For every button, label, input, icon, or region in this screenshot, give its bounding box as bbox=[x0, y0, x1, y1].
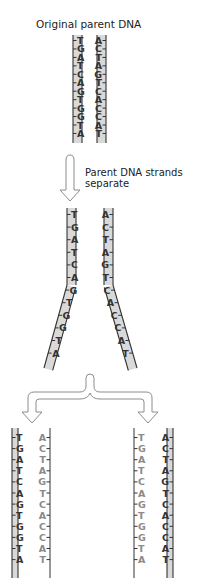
separating-dna-duplex: TAGCATTACGATGCTAGCGCTAAT bbox=[44, 208, 137, 371]
left-daughter-duplex: TAGCATTACGATGCTAGCGCTAAT bbox=[12, 428, 50, 578]
nucleotide-base: A bbox=[162, 510, 170, 521]
nucleotide-base: A bbox=[39, 543, 47, 554]
nucleotide-base: G bbox=[138, 521, 146, 532]
nucleotide-base: T bbox=[16, 465, 23, 476]
nucleotide-base: T bbox=[103, 234, 110, 245]
nucleotide-base: C bbox=[138, 476, 145, 487]
nucleotide-base: A bbox=[71, 272, 79, 283]
nucleotide-base: A bbox=[77, 128, 85, 139]
nucleotide-base: A bbox=[162, 465, 170, 476]
down-arrow-icon bbox=[60, 155, 80, 201]
separation-label-line2: separate bbox=[85, 178, 183, 189]
nucleotide-base: T bbox=[71, 209, 78, 220]
nucleotide-base: A bbox=[102, 247, 110, 258]
nucleotide-base: C bbox=[111, 310, 118, 321]
nucleotide-base: G bbox=[138, 443, 146, 454]
nucleotide-base: A bbox=[71, 234, 79, 245]
separation-label-line1: Parent DNA strands bbox=[85, 167, 183, 178]
nucleotide-base: G bbox=[59, 322, 67, 333]
nucleotide-base: T bbox=[138, 543, 145, 554]
nucleotide-base: T bbox=[16, 510, 23, 521]
diagram-canvas: TAGCATTACGATGCTAGCGCTAAT TAGCATTACGATGCT… bbox=[0, 0, 198, 579]
nucleotide-base: A bbox=[39, 432, 47, 443]
nucleotide-base: T bbox=[96, 128, 103, 139]
nucleotide-base: G bbox=[101, 259, 109, 270]
nucleotide-base: C bbox=[71, 259, 78, 270]
nucleotide-base: T bbox=[16, 543, 23, 554]
nucleotide-base: T bbox=[122, 348, 129, 359]
nucleotide-base: A bbox=[138, 554, 146, 565]
nucleotide-base: A bbox=[52, 348, 60, 359]
nucleotide-base: G bbox=[161, 476, 169, 487]
nucleotide-base: C bbox=[102, 222, 109, 233]
nucleotide-base: T bbox=[66, 297, 73, 308]
nucleotide-base: T bbox=[56, 335, 63, 346]
nucleotide-base: G bbox=[71, 222, 79, 233]
nucleotide-base: A bbox=[107, 297, 115, 308]
nucleotide-base: C bbox=[39, 532, 46, 543]
nucleotide-base: T bbox=[138, 432, 145, 443]
nucleotide-base: A bbox=[118, 335, 126, 346]
nucleotide-base: A bbox=[138, 454, 146, 465]
nucleotide-base: G bbox=[70, 285, 78, 296]
nucleotide-base: G bbox=[138, 532, 146, 543]
nucleotide-base: C bbox=[39, 521, 46, 532]
nucleotide-base: T bbox=[163, 454, 170, 465]
nucleotide-base: G bbox=[63, 310, 71, 321]
nucleotide-base: T bbox=[16, 432, 23, 443]
nucleotide-base: A bbox=[39, 510, 47, 521]
nucleotide-base: A bbox=[162, 432, 170, 443]
nucleotide-base: G bbox=[38, 476, 46, 487]
nucleotide-base: C bbox=[39, 443, 46, 454]
nucleotide-base: A bbox=[16, 488, 24, 499]
nucleotide-base: T bbox=[163, 488, 170, 499]
right-daughter-duplex: TAGCATTACGATGCTAGCGCTAAT bbox=[134, 428, 173, 578]
nucleotide-base: A bbox=[39, 465, 47, 476]
nucleotide-base: T bbox=[163, 554, 170, 565]
nucleotide-base: G bbox=[16, 532, 24, 543]
nucleotide-base: T bbox=[40, 488, 47, 499]
nucleotide-base: C bbox=[103, 285, 110, 296]
nucleotide-base: T bbox=[138, 510, 145, 521]
nucleotide-base: T bbox=[40, 554, 47, 565]
nucleotide-base: C bbox=[162, 532, 169, 543]
nucleotide-base: A bbox=[16, 554, 24, 565]
nucleotide-base: C bbox=[162, 443, 169, 454]
nucleotide-base: G bbox=[138, 499, 146, 510]
nucleotide-base: T bbox=[71, 247, 78, 258]
nucleotide-base: T bbox=[138, 465, 145, 476]
parent-dna-duplex: TAGCATTACGATGCTAGCGCTAAT bbox=[73, 35, 106, 143]
nucleotide-base: A bbox=[162, 543, 170, 554]
nucleotide-base: A bbox=[16, 454, 24, 465]
nucleotide-base: C bbox=[162, 521, 169, 532]
nucleotide-base: C bbox=[39, 499, 46, 510]
nucleotide-base: C bbox=[16, 476, 23, 487]
dna-replication-diagram: Original parent DNA TAGCATTACGATGCTAGCGC… bbox=[0, 0, 198, 579]
nucleotide-base: A bbox=[138, 488, 146, 499]
nucleotide-base: T bbox=[40, 454, 47, 465]
nucleotide-base: G bbox=[16, 443, 24, 454]
nucleotide-base: G bbox=[16, 499, 24, 510]
nucleotide-base: T bbox=[103, 272, 110, 283]
nucleotide-base: G bbox=[16, 521, 24, 532]
split-arrow-icon bbox=[22, 374, 158, 423]
nucleotide-base: A bbox=[102, 209, 110, 220]
nucleotide-base: C bbox=[162, 499, 169, 510]
separation-label: Parent DNA strands separate bbox=[85, 167, 183, 189]
nucleotide-base: C bbox=[114, 322, 121, 333]
